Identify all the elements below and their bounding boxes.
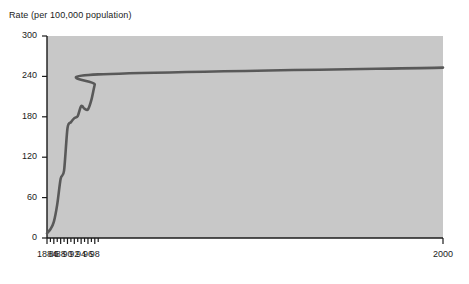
y-axis-major-ticks xyxy=(42,36,47,238)
y-axis-tick-label: 300 xyxy=(5,30,37,40)
line-chart: Rate (per 100,000 population) 0601201802… xyxy=(0,0,469,284)
y-axis-tick-label: 120 xyxy=(5,151,37,161)
y-axis-tick-label: 240 xyxy=(5,70,37,80)
x-axis-major-ticks xyxy=(47,238,443,244)
x-axis-tick-label: 98 xyxy=(73,249,117,259)
y-axis-tick-label: 180 xyxy=(5,111,37,121)
plot-area xyxy=(0,0,469,284)
y-axis-tick-label: 60 xyxy=(5,192,37,202)
y-axis-tick-label: 0 xyxy=(5,232,37,242)
x-axis-tick-label: 2000 xyxy=(421,249,465,259)
plot-background xyxy=(47,36,443,238)
